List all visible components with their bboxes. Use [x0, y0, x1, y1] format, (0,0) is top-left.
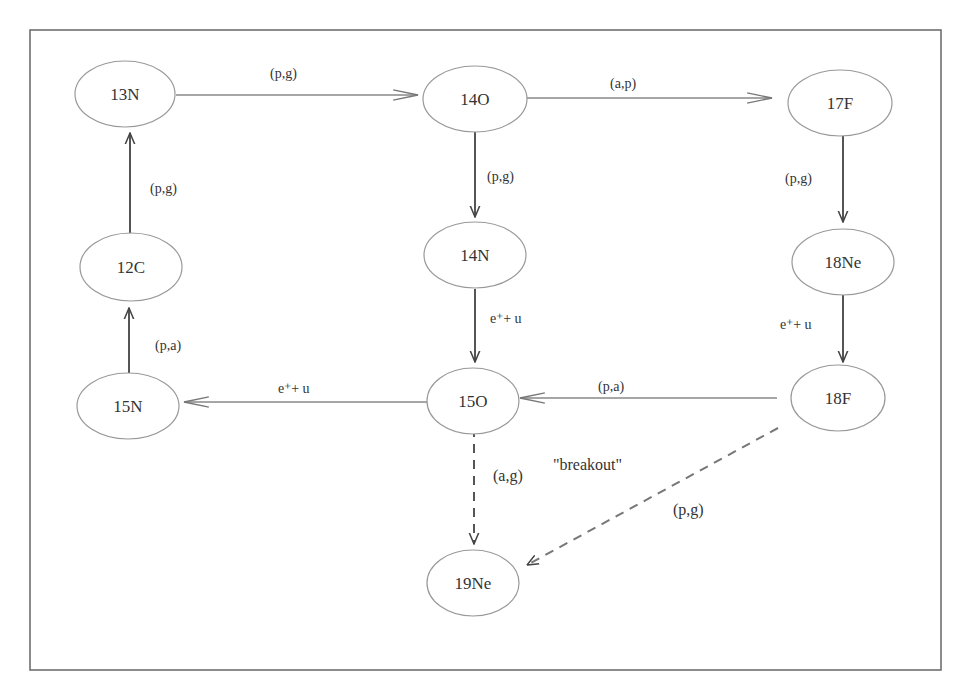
edge-label: (p,g): [150, 181, 177, 197]
cno-cycle-diagram: (p,g) (a,p) (p,g) (p,g) (p,g) (p,a) e⁺+ …: [0, 0, 968, 697]
svg-text:18Ne: 18Ne: [825, 253, 862, 272]
node-12C: 12C: [80, 233, 182, 301]
node-18Ne: 18Ne: [792, 229, 894, 295]
edge-18F-19Ne: (p,g): [527, 428, 778, 565]
node-14N: 14N: [424, 222, 526, 288]
node-17F: 17F: [788, 70, 892, 136]
svg-text:19Ne: 19Ne: [455, 574, 492, 593]
svg-text:13N: 13N: [110, 85, 139, 104]
edge-12C-13N: (p,g): [130, 133, 177, 235]
edge-13N-14O: (p,g): [176, 66, 418, 95]
svg-text:17F: 17F: [827, 94, 853, 113]
edge-label: (p,a): [155, 338, 181, 354]
node-13N: 13N: [75, 61, 175, 127]
node-15O: 15O: [427, 368, 519, 434]
edge-label: (p,g): [487, 169, 514, 185]
edge-label: e⁺+ u: [780, 317, 812, 332]
svg-text:14N: 14N: [460, 246, 489, 265]
edge-label: e⁺+ u: [278, 381, 310, 396]
edge-18Ne-18F: e⁺+ u: [780, 295, 843, 362]
svg-text:15N: 15N: [113, 397, 142, 416]
svg-text:18F: 18F: [825, 389, 851, 408]
edge-label: (p,g): [270, 66, 297, 82]
edge-14N-15O: e⁺+ u: [475, 289, 522, 362]
breakout-annotation: "breakout": [553, 456, 622, 473]
svg-text:14O: 14O: [460, 90, 489, 109]
edge-label: (p,a): [598, 379, 624, 395]
edge-label: (p,g): [673, 501, 704, 519]
edge-label: (a,g): [493, 467, 523, 485]
edge-14O-17F: (a,p): [527, 76, 772, 98]
svg-text:12C: 12C: [117, 258, 145, 277]
edge-15O-19Ne: (a,g): [474, 428, 523, 544]
svg-text:15O: 15O: [458, 392, 487, 411]
node-18F: 18F: [791, 365, 885, 431]
edge-label: (a,p): [610, 76, 636, 92]
edge-17F-18Ne: (p,g): [785, 136, 843, 222]
edge-14O-14N: (p,g): [475, 132, 514, 217]
edge-label: (p,g): [785, 171, 812, 187]
node-15N: 15N: [77, 373, 179, 439]
edge-15N-12C: (p,a): [129, 308, 181, 373]
edge-15O-15N: e⁺+ u: [184, 381, 429, 402]
node-14O: 14O: [423, 66, 527, 132]
node-19Ne: 19Ne: [427, 550, 519, 616]
edge-label: e⁺+ u: [490, 311, 522, 326]
edge-18F-15O: (p,a): [520, 379, 777, 398]
